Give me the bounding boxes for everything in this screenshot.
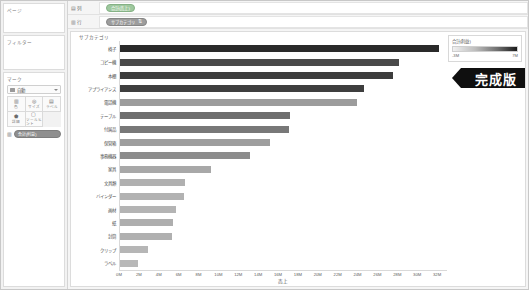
bar-mark[interactable] <box>120 219 173 226</box>
color-legend-max: 7M <box>512 53 518 58</box>
mark-button-tooltip-label: ツールヒント <box>26 118 43 126</box>
marks-color-pill-row[interactable]: ▥ 合計(利益) <box>7 130 61 138</box>
bar-row <box>120 203 447 216</box>
completed-version-badge-label: 完成版 <box>475 69 517 88</box>
category-label[interactable]: 椅子 <box>71 42 119 55</box>
x-axis-tick-label: 6M <box>176 272 182 277</box>
category-label[interactable]: 本棚 <box>71 69 119 82</box>
columns-shelf-dropzone[interactable]: 合計(売上) <box>99 2 528 14</box>
mark-button-tooltip[interactable]: ▢ ツールヒント <box>26 112 44 127</box>
bar-mark[interactable] <box>120 139 270 146</box>
color-legend[interactable]: 合計(利益) -3M 7M <box>448 35 522 62</box>
x-axis-tick-label: 12M <box>234 272 242 277</box>
mark-button-size-label: サイズ <box>28 105 40 109</box>
category-label[interactable]: 家具 <box>71 163 119 176</box>
pages-card-title: ページ <box>4 4 64 15</box>
x-axis-tick-label: 26M <box>373 272 381 277</box>
bar-mark[interactable] <box>120 152 250 159</box>
mark-button-text-label: ラベル <box>46 105 58 109</box>
bar-row <box>120 42 447 55</box>
x-axis-tick-label: 4M <box>156 272 162 277</box>
category-label[interactable]: 封筒 <box>71 230 119 243</box>
pill-sum-sales[interactable]: 合計(売上) <box>106 4 135 12</box>
visualization-area: サブカテゴリ 椅子コピー機本棚アプライアンス電話機テーブル付属品保管箱事務機器家… <box>70 31 526 287</box>
bar-mark[interactable] <box>120 126 289 133</box>
pill-subcategory[interactable]: サブカテゴリ ⇅ <box>106 18 147 26</box>
x-axis-tick-label: 10M <box>214 272 222 277</box>
mark-button-size[interactable]: ◎ サイズ <box>26 97 44 112</box>
category-label[interactable]: ラベル <box>71 257 119 270</box>
bar-row <box>120 163 447 176</box>
color-legend-scale: -3M 7M <box>452 53 518 58</box>
bar-row <box>120 109 447 122</box>
color-icon: ▥ <box>14 99 19 104</box>
marks-buttons-grid: ▥ 色 ◎ サイズ ▤ ラベル ⬟ 詳細 ▢ ツールヒント <box>7 96 61 127</box>
x-axis-tick-label: 8M <box>196 272 202 277</box>
size-icon: ◎ <box>32 99 36 104</box>
mark-button-detail[interactable]: ⬟ 詳細 <box>8 112 26 127</box>
marks-color-pill[interactable]: 合計(利益) <box>14 130 61 138</box>
bar-row <box>120 69 447 82</box>
bar-mark[interactable] <box>120 260 138 267</box>
color-legend-min: -3M <box>452 53 459 58</box>
x-axis-tick-label: 2M <box>136 272 142 277</box>
sort-descending-icon[interactable]: ⇅ <box>138 19 142 24</box>
marks-type-dropdown[interactable]: 自動 <box>7 85 61 94</box>
x-axis-ticks: 0M2M4M6M8M10M12M14M16M18M20M22M24M26M28M… <box>119 270 447 278</box>
bar-mark[interactable] <box>120 206 176 213</box>
category-label[interactable]: 保管箱 <box>71 136 119 149</box>
bar-row <box>120 176 447 189</box>
rows-icon: ▥ <box>70 19 77 25</box>
tableau-worksheet-window: ページ フィルター マーク 自動 ▥ 色 ◎ サイズ <box>0 0 529 290</box>
rows-shelf-label: 行 <box>77 19 99 25</box>
category-label[interactable]: コピー機 <box>71 55 119 68</box>
bar-mark[interactable] <box>120 166 211 173</box>
x-axis-tick-label: 32M <box>433 272 441 277</box>
marks-type-label: 自動 <box>17 87 52 93</box>
category-label[interactable]: 事務機器 <box>71 149 119 162</box>
bar-mark[interactable] <box>120 59 399 66</box>
category-label[interactable]: テーブル <box>71 109 119 122</box>
pages-card[interactable]: ページ <box>3 3 65 33</box>
pill-subcategory-label: サブカテゴリ <box>111 19 135 25</box>
bar-mark[interactable] <box>120 45 439 52</box>
bar-mark[interactable] <box>120 72 393 79</box>
rows-shelf[interactable]: ▥ 行 サブカテゴリ ⇅ <box>68 15 528 29</box>
bar-row <box>120 230 447 243</box>
bar-mark[interactable] <box>120 246 148 253</box>
mark-button-color-label: 色 <box>14 105 18 109</box>
chevron-down-icon[interactable] <box>54 89 58 91</box>
category-label[interactable]: 画材 <box>71 203 119 216</box>
marks-card-title: マーク <box>4 73 64 84</box>
category-label[interactable]: 紙 <box>71 216 119 229</box>
mark-button-detail-label: 詳細 <box>12 120 20 124</box>
detail-icon: ⬟ <box>14 114 18 119</box>
filters-card[interactable]: フィルター <box>3 35 65 70</box>
tooltip-icon: ▢ <box>31 112 36 117</box>
category-label[interactable]: バインダー <box>71 189 119 202</box>
bar-mark[interactable] <box>120 233 172 240</box>
mark-button-color[interactable]: ▥ 色 <box>8 97 26 112</box>
rows-shelf-dropzone[interactable]: サブカテゴリ ⇅ <box>99 16 528 28</box>
bar-mark[interactable] <box>120 85 364 92</box>
category-label[interactable]: アプライアンス <box>71 82 119 95</box>
color-legend-gradient <box>452 46 518 52</box>
columns-shelf[interactable]: ▤ 列 合計(売上) <box>68 1 528 15</box>
color-legend-title: 合計(利益) <box>452 38 518 44</box>
x-axis-tick-label: 30M <box>413 272 421 277</box>
bars-region <box>119 41 447 270</box>
bar-row <box>120 96 447 109</box>
category-label[interactable]: クリップ <box>71 243 119 256</box>
x-axis-tick-label: 18M <box>294 272 302 277</box>
bar-row <box>120 149 447 162</box>
bar-row <box>120 189 447 202</box>
bar-mark[interactable] <box>120 112 290 119</box>
bar-mark[interactable] <box>120 179 185 186</box>
bar-mark[interactable] <box>120 193 184 200</box>
marks-card[interactable]: マーク 自動 ▥ 色 ◎ サイズ ▤ ラベル <box>3 72 65 287</box>
category-label[interactable]: 文具類 <box>71 176 119 189</box>
bar-mark[interactable] <box>120 99 357 106</box>
category-label[interactable]: 電話機 <box>71 96 119 109</box>
mark-button-text[interactable]: ▤ ラベル <box>43 97 61 112</box>
category-label[interactable]: 付属品 <box>71 122 119 135</box>
